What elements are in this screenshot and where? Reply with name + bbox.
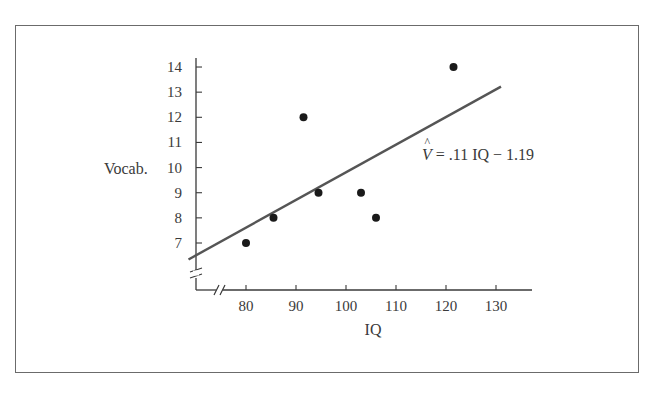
data-point — [242, 239, 250, 247]
y-tick-label: 10 — [167, 160, 182, 176]
data-point — [372, 214, 380, 222]
regression-equation: V = .11 IQ − 1.19 — [422, 146, 534, 163]
data-point — [450, 63, 458, 71]
data-point — [270, 214, 278, 222]
hat-accent: ^ — [425, 135, 431, 149]
regression-line — [189, 87, 502, 260]
data-point — [300, 113, 308, 121]
x-tick-label: 80 — [239, 298, 254, 314]
y-tick-labels: 7891011121314 — [167, 59, 183, 251]
x-tick-label: 120 — [435, 298, 458, 314]
data-point — [357, 189, 365, 197]
x-tick-label: 90 — [289, 298, 304, 314]
scatter-chart: 8090100110120130 7891011121314 IQ Vocab.… — [0, 0, 662, 393]
y-axis-label: Vocab. — [104, 160, 148, 177]
x-tick-labels: 8090100110120130 — [239, 298, 508, 314]
x-tick-label: 110 — [385, 298, 407, 314]
y-tick-label: 14 — [167, 59, 183, 75]
x-tick-label: 130 — [485, 298, 508, 314]
equation-body: = .11 IQ − 1.19 — [432, 146, 534, 163]
tick-marks — [196, 67, 496, 290]
y-tick-label: 11 — [168, 134, 182, 150]
axes — [190, 58, 532, 295]
y-tick-label: 8 — [175, 210, 183, 226]
y-tick-label: 13 — [167, 84, 182, 100]
x-axis-label: IQ — [365, 321, 382, 338]
y-tick-label: 9 — [175, 185, 183, 201]
data-point — [315, 189, 323, 197]
y-tick-label: 12 — [167, 109, 182, 125]
y-tick-label: 7 — [175, 235, 183, 251]
x-tick-label: 100 — [335, 298, 358, 314]
